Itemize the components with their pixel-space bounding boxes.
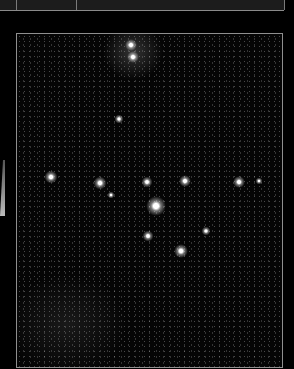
bright-star — [202, 227, 211, 236]
bright-star — [127, 51, 139, 63]
bright-star — [45, 171, 58, 184]
bright-star — [143, 231, 154, 242]
toolbar-cell[interactable] — [76, 0, 285, 10]
bright-star — [115, 115, 124, 124]
bright-star — [142, 177, 153, 188]
toolbar-cell[interactable] — [16, 0, 77, 10]
bright-star — [179, 175, 191, 187]
bright-star — [233, 176, 245, 188]
starfield-image — [16, 33, 283, 368]
bright-star — [256, 178, 263, 185]
bright-star — [108, 192, 115, 199]
top-toolbar — [0, 0, 284, 11]
bright-star — [174, 244, 188, 258]
side-panel-edge — [0, 160, 5, 216]
bright-star — [94, 177, 107, 190]
bright-star — [146, 196, 166, 216]
bright-star — [125, 39, 137, 51]
